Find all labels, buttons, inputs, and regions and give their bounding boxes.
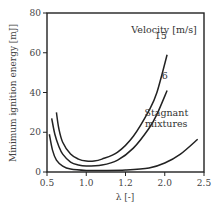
y-tick-label: 40 <box>30 88 42 98</box>
y-tick-label: 80 <box>30 8 42 18</box>
x-tick-label: 1.2 <box>118 178 132 188</box>
ignition-energy-chart: 020406080 0.51.01.22.02.5 156Stagnantmix… <box>0 0 218 218</box>
x-axis: 0.51.01.22.02.5 <box>40 172 212 188</box>
x-tick-label: 1.0 <box>79 178 94 188</box>
plot-frame <box>47 13 204 172</box>
series-label: 6 <box>162 70 168 81</box>
y-tick-label: 60 <box>30 48 42 58</box>
plot-area <box>47 13 204 172</box>
y-axis-title: Minimum ignition energy [mJ] <box>8 24 18 162</box>
x-tick-label: 2.0 <box>158 178 173 188</box>
series-label: Stagnantmixtures <box>144 107 188 129</box>
curve-labels: 156Stagnantmixtures <box>144 30 188 130</box>
y-axis: 020406080 <box>30 8 47 177</box>
y-tick-label: 0 <box>35 167 41 177</box>
x-tick-label: 2.5 <box>197 178 212 188</box>
y-tick-label: 20 <box>30 127 42 137</box>
x-axis-title: λ [-] <box>116 192 135 202</box>
legend-title: Velocity [m/s] <box>130 24 196 35</box>
x-tick-label: 0.5 <box>40 178 55 188</box>
curve-stagnant-mixtures <box>49 134 197 170</box>
